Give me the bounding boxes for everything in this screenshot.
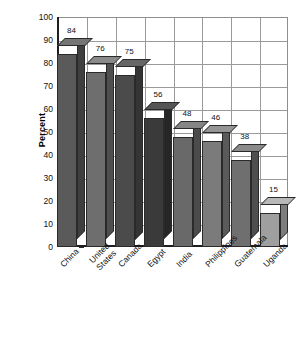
y-tick-label: 80 (28, 57, 53, 69)
y-tick-label: 40 (28, 149, 53, 161)
bar[interactable] (57, 46, 85, 247)
y-tick-label: 0 (28, 241, 53, 253)
x-axis-category-labels: ChinaUnitedStatesCanadaEgyptIndiaPhilipp… (0, 256, 301, 338)
y-tick-label: 100 (28, 11, 53, 23)
bar-side-face (222, 125, 230, 239)
bar-side-face (193, 121, 201, 239)
bar-group[interactable]: 48 (173, 17, 201, 247)
bar-side-face (77, 38, 85, 239)
bar[interactable] (173, 129, 201, 247)
bar[interactable] (86, 64, 114, 247)
y-tick-label: 50 (28, 126, 53, 138)
y-tick-label: 10 (28, 218, 53, 230)
bar-front-face (202, 141, 222, 247)
y-axis-tick-labels: 0102030405060708090100 (28, 11, 53, 247)
y-tick-label: 30 (28, 172, 53, 184)
bar-top-face (260, 197, 296, 205)
bar-front-face (144, 118, 164, 247)
bar-side-face (106, 56, 114, 239)
bar-group[interactable]: 75 (115, 17, 143, 247)
bar-group[interactable]: 38 (231, 17, 259, 247)
bar-value-label: 15 (254, 185, 294, 195)
bar-front-face (57, 54, 77, 247)
bar[interactable] (144, 110, 172, 247)
y-tick-label: 20 (28, 195, 53, 207)
bar-front-face (115, 75, 135, 248)
bars-layer: 8476755648463815 (57, 17, 288, 255)
bar[interactable] (202, 133, 230, 247)
bar[interactable] (231, 152, 259, 247)
bar-side-face (135, 59, 143, 240)
bar-group[interactable]: 56 (144, 17, 172, 247)
bar-chart: Percent 0102030405060708090100 847675564… (0, 0, 301, 338)
bar-side-face (164, 102, 172, 239)
bar-front-face (86, 72, 106, 247)
bar-front-face (173, 137, 193, 247)
y-tick-label: 70 (28, 80, 53, 92)
bar-group[interactable]: 15 (260, 17, 288, 247)
y-tick-label: 60 (28, 103, 53, 115)
y-tick-label: 90 (28, 34, 53, 46)
